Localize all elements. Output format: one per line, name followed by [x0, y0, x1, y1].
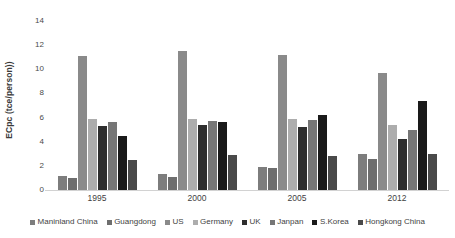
- legend-swatch-icon: [165, 220, 170, 225]
- bar: [328, 156, 337, 190]
- bar: [288, 119, 297, 190]
- bar: [318, 115, 327, 190]
- chart-legend: Maninland ChinaGuangdongUSGermanyUKJanpa…: [0, 214, 455, 230]
- bar: [98, 126, 107, 190]
- bar-group-2005: [247, 21, 347, 190]
- bar-chart: ECpc (tce/person)) 02468101214 199520002…: [0, 0, 455, 238]
- bar: [118, 136, 127, 190]
- bar: [168, 177, 177, 190]
- legend-label: UK: [250, 218, 261, 226]
- y-axis-tick: 2: [22, 162, 44, 170]
- y-axis-tick-labels: 02468101214: [22, 21, 44, 190]
- legend-item[interactable]: Germany: [193, 218, 233, 226]
- y-axis-tick: 14: [22, 17, 44, 25]
- legend-swatch-icon: [312, 220, 317, 225]
- bar: [58, 176, 67, 190]
- legend-item[interactable]: Hongkong China: [358, 218, 425, 226]
- y-axis-tick: 6: [22, 114, 44, 122]
- bar: [158, 174, 167, 190]
- legend-label: Germany: [200, 218, 233, 226]
- legend-label: Guangdong: [114, 218, 156, 226]
- legend-label: S.Korea: [320, 218, 349, 226]
- bar-group-2000: [147, 21, 247, 190]
- legend-swatch-icon: [107, 220, 112, 225]
- bar: [388, 125, 397, 190]
- x-axis-category-labels: 1995200020052012: [47, 193, 447, 207]
- bar: [428, 154, 437, 190]
- bar: [188, 119, 197, 190]
- x-axis-label-2012: 2012: [388, 193, 407, 203]
- legend-label: Hongkong China: [365, 218, 425, 226]
- bar: [208, 121, 217, 190]
- legend-swatch-icon: [358, 220, 363, 225]
- bar: [358, 154, 367, 190]
- y-axis-tick: 10: [22, 65, 44, 73]
- bar: [178, 51, 187, 190]
- legend-swatch-icon: [242, 220, 247, 225]
- bar: [408, 130, 417, 190]
- bar: [198, 125, 207, 190]
- bar: [278, 55, 287, 190]
- bar: [218, 122, 227, 190]
- legend-swatch-icon: [193, 220, 198, 225]
- x-axis-label-1995: 1995: [88, 193, 107, 203]
- bar: [368, 159, 377, 190]
- legend-item[interactable]: Maninland China: [30, 218, 98, 226]
- bar: [298, 127, 307, 190]
- legend-label: Maninland China: [38, 218, 98, 226]
- bar: [268, 168, 277, 190]
- y-axis-tick: 4: [22, 138, 44, 146]
- bar: [108, 122, 117, 190]
- bar-group-2012: [347, 21, 447, 190]
- bar: [398, 139, 407, 190]
- legend-item[interactable]: UK: [242, 218, 261, 226]
- y-axis-tick: 8: [22, 89, 44, 97]
- bar: [68, 178, 77, 190]
- legend-label: Janpan: [277, 218, 303, 226]
- bar: [88, 119, 97, 190]
- y-axis-title: ECpc (tce/person)): [0, 0, 18, 200]
- y-axis-title-text: ECpc (tce/person)): [4, 61, 14, 138]
- x-axis-label-2005: 2005: [288, 193, 307, 203]
- legend-swatch-icon: [30, 220, 35, 225]
- bar: [418, 101, 427, 190]
- bar: [378, 73, 387, 190]
- bar: [78, 56, 87, 190]
- bar-group-1995: [47, 21, 147, 190]
- bar: [258, 167, 267, 190]
- legend-item[interactable]: S.Korea: [312, 218, 348, 226]
- legend-item[interactable]: Guangdong: [107, 218, 156, 226]
- bar: [308, 120, 317, 190]
- y-axis-tick: 12: [22, 41, 44, 49]
- legend-item[interactable]: US: [165, 218, 184, 226]
- legend-item[interactable]: Janpan: [270, 218, 304, 226]
- legend-swatch-icon: [270, 220, 275, 225]
- plot-area: [47, 21, 447, 190]
- x-axis-baseline: [45, 190, 449, 191]
- legend-label: US: [172, 218, 183, 226]
- y-axis-tick: 0: [22, 186, 44, 194]
- bar: [128, 160, 137, 190]
- bar: [228, 155, 237, 190]
- x-axis-label-2000: 2000: [188, 193, 207, 203]
